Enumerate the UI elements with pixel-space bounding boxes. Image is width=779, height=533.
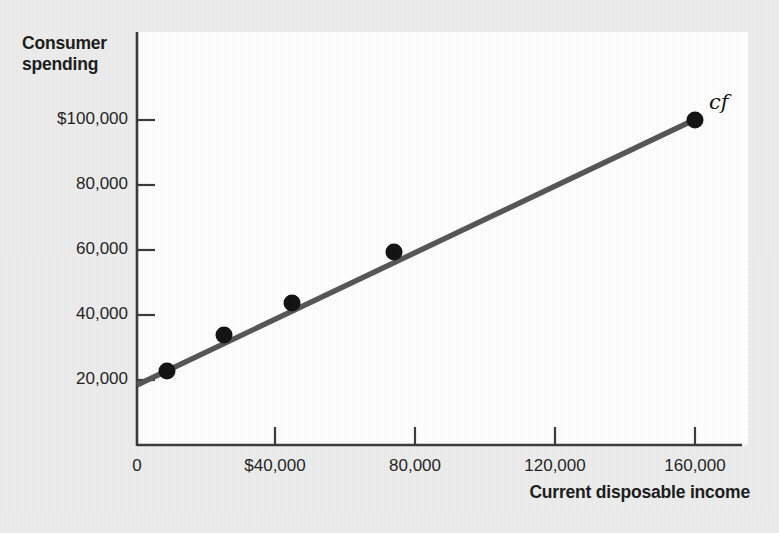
chart-graphics — [0, 0, 779, 533]
curve-label-cf: cf — [709, 90, 729, 114]
x-axis-title: Current disposable income — [430, 482, 750, 503]
data-point — [687, 112, 704, 129]
y-tick-label-20000: 20,000 — [18, 369, 128, 389]
x-axis-ticks — [275, 427, 695, 445]
consumption-function-line — [137, 119, 696, 385]
consumer-spending-chart: Consumer spending Current disposable inc… — [0, 0, 779, 533]
y-axis-ticks — [137, 120, 155, 380]
x-tick-label-120000: 120,000 — [495, 456, 615, 476]
data-point — [284, 295, 301, 312]
x-tick-label-80000: 80,000 — [355, 456, 475, 476]
x-tick-label-0: 0 — [77, 456, 197, 476]
y-tick-label-60000: 60,000 — [18, 239, 128, 259]
data-point — [159, 363, 176, 380]
data-point — [216, 327, 233, 344]
x-tick-label-40000: $40,000 — [215, 456, 335, 476]
data-point — [386, 244, 403, 261]
y-axis-title-line-2: spending — [22, 54, 134, 75]
y-tick-label-40000: 40,000 — [18, 304, 128, 324]
y-axis-title: Consumer spending — [22, 33, 134, 74]
y-axis-title-line-1: Consumer — [22, 33, 134, 54]
y-tick-label-100000: $100,000 — [18, 109, 128, 129]
y-tick-label-80000: 80,000 — [18, 174, 128, 194]
x-tick-label-160000: 160,000 — [635, 456, 755, 476]
